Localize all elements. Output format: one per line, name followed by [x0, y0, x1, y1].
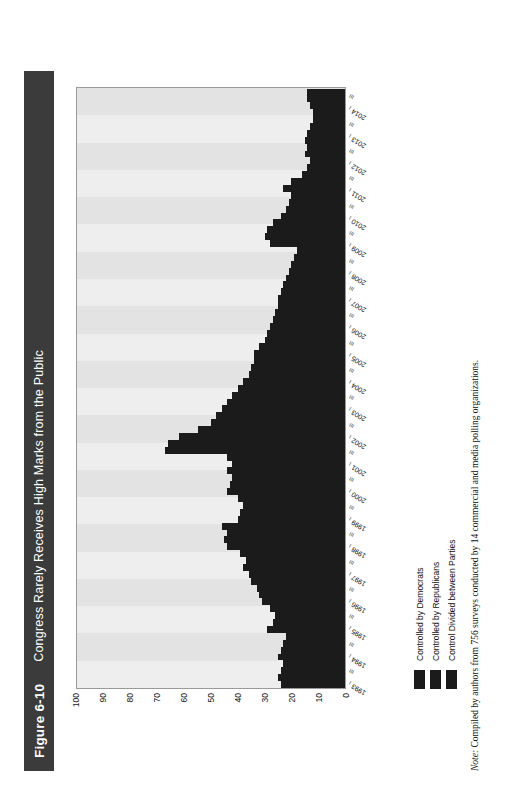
bar-slot [77, 557, 345, 564]
y-axis-tick-label: 90 [98, 693, 108, 702]
bar [265, 337, 345, 344]
x-axis-year-group: 2010IIII [348, 196, 406, 223]
bar [289, 199, 345, 206]
bar-slot [77, 481, 345, 488]
bar-slot [77, 137, 345, 144]
y-axis-tick-label: 50 [206, 693, 216, 702]
bar [283, 185, 345, 192]
bar [281, 647, 345, 654]
bar-slot [77, 667, 345, 674]
bar [257, 585, 345, 592]
bar [305, 151, 345, 158]
bar-slot [77, 626, 345, 633]
bar [307, 130, 345, 137]
bar-slot [77, 516, 345, 523]
bar [281, 288, 345, 295]
bar-slot [77, 530, 345, 537]
bar-slot [77, 89, 345, 96]
x-axis-year-group: 1999IIII [348, 497, 406, 524]
bar-slot [77, 550, 345, 557]
bar [227, 530, 345, 537]
bar-slot [77, 95, 345, 102]
x-axis-year-label: 1993 [350, 683, 367, 697]
bar [281, 667, 345, 674]
x-axis-quarter-mark: III [348, 449, 355, 456]
bar [232, 461, 345, 468]
bar [259, 343, 345, 350]
bar-slot [77, 640, 345, 647]
bar [310, 157, 345, 164]
legend-item: Controlled by Republicans [430, 269, 441, 689]
bar [313, 116, 345, 123]
bar-slot [77, 323, 345, 330]
legend-swatch-icon [414, 670, 425, 689]
figure-page: Figure 6-10 Congress Rarely Receives Hig… [0, 0, 506, 793]
bar [313, 109, 345, 116]
bar [227, 543, 345, 550]
bar [222, 405, 345, 412]
x-axis-quarter-mark: III [348, 121, 355, 128]
bar [179, 433, 345, 440]
x-axis-quarter-mark: III [348, 257, 355, 264]
bar-slot [77, 509, 345, 516]
rotated-page-wrapper: Figure 6-10 Congress Rarely Receives Hig… [0, 0, 506, 793]
bar [273, 619, 345, 626]
y-axis-tick-label: 20 [287, 693, 297, 702]
note-label: Note: [470, 750, 480, 771]
bar [227, 454, 345, 461]
bar-slot [77, 247, 345, 254]
bar [281, 213, 345, 220]
bar [238, 516, 345, 523]
figure-number: Figure 6-10 [32, 684, 47, 758]
x-axis-quarter-mark: III [348, 203, 355, 210]
bar [211, 419, 345, 426]
bar [270, 605, 345, 612]
legend-swatch-icon [430, 670, 441, 689]
bar-slot [77, 585, 345, 592]
bar [291, 178, 345, 185]
bar [240, 509, 345, 516]
bar [310, 123, 345, 130]
bar [286, 633, 345, 640]
bar-slot [77, 495, 345, 502]
page-title: Congress Rarely Receives High Marks from… [32, 350, 46, 662]
x-axis-year-group: 2014IIII [348, 87, 406, 114]
bar [267, 226, 345, 233]
bar [238, 495, 345, 502]
figure-note: Note: Compiled by authors from 756 surve… [470, 81, 480, 771]
bar-slot [77, 157, 345, 164]
x-axis-quarter-mark: III [348, 230, 355, 237]
bar [302, 171, 345, 178]
bar [243, 378, 345, 385]
bar-slot [77, 213, 345, 220]
x-axis-quarter-mark: III [348, 285, 355, 292]
bar-slot [77, 523, 345, 530]
bar [297, 247, 345, 254]
bar-slot [77, 364, 345, 371]
bar [283, 281, 345, 288]
bar [216, 412, 345, 419]
note-text: Compiled by authors from 756 surveys con… [470, 360, 480, 750]
bar [278, 295, 345, 302]
bar-slot [77, 654, 345, 661]
bar-slot [77, 419, 345, 426]
bar-slot [77, 151, 345, 158]
bar [251, 364, 345, 371]
bar [305, 137, 345, 144]
bar [307, 89, 345, 96]
bar-slot [77, 350, 345, 357]
x-axis-quarter-mark: III [348, 422, 355, 429]
bar-slot [77, 102, 345, 109]
bar-slot [77, 357, 345, 364]
bar-slot [77, 233, 345, 240]
bar-slot [77, 185, 345, 192]
bar-slot [77, 392, 345, 399]
bar [254, 357, 345, 364]
bar-slot [77, 316, 345, 323]
bar-slot [77, 144, 345, 151]
bar-slot [77, 295, 345, 302]
bar [165, 447, 345, 454]
bar-slot [77, 116, 345, 123]
bar [168, 440, 345, 447]
chart-bars [77, 88, 345, 688]
